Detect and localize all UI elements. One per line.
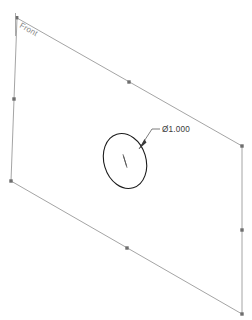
center-mark-horizontal <box>124 156 127 166</box>
midpoint-marker-left-edge[interactable] <box>12 97 15 100</box>
dimension-value-text[interactable]: Ø1.000 <box>162 125 190 134</box>
circle-center-mark <box>123 154 127 167</box>
cad-sketch-svg: Front Ø1.000 <box>0 0 252 320</box>
midpoint-marker-right-edge[interactable] <box>240 228 243 231</box>
vertex-marker-bottom-right[interactable] <box>240 312 243 315</box>
diameter-dimension[interactable]: Ø1.000 <box>139 125 190 149</box>
cad-drawing-canvas: Front Ø1.000 <box>0 0 252 320</box>
vertex-marker-bottom-left[interactable] <box>9 179 12 182</box>
plane-midpoint-markers[interactable] <box>12 80 243 249</box>
midpoint-marker-bottom-edge[interactable] <box>125 246 128 249</box>
midpoint-marker-top-edge[interactable] <box>127 80 130 83</box>
front-plane-label: Front <box>18 21 40 39</box>
sketched-circle-group[interactable] <box>97 128 154 194</box>
vertex-marker-top-right[interactable] <box>240 144 243 147</box>
front-plane-label-group[interactable]: Front <box>16 13 40 39</box>
